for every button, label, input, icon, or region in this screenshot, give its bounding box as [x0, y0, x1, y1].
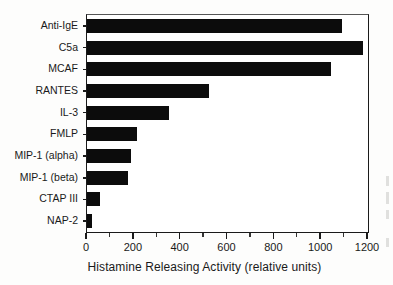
y-axis-tick: [83, 134, 87, 136]
bar-ctap-iii: [87, 192, 100, 206]
x-tick-major: [226, 233, 228, 239]
chart-figure: Anti-IgEC5aMCAFRANTESIL-3FMLPMIP-1 (alph…: [0, 0, 393, 285]
scan-artifact: [386, 238, 389, 247]
x-axis-title: Histamine Releasing Activity (relative u…: [0, 259, 393, 275]
bar-mcaf: [87, 62, 331, 76]
x-tick-label-400: 400: [170, 240, 188, 254]
category-label-mip-1-alpha: MIP-1 (alpha): [14, 149, 78, 161]
category-label-mcaf: MCAF: [48, 62, 78, 74]
scan-artifact: [386, 210, 389, 219]
category-label-il-3: IL-3: [60, 106, 78, 118]
x-tick-label-800: 800: [264, 240, 282, 254]
bar-row: [87, 214, 368, 228]
x-tick-minor: [109, 233, 110, 237]
bar-mip-1-beta: [87, 171, 128, 185]
y-axis-tick: [83, 25, 87, 27]
x-tick-label-200: 200: [124, 240, 142, 254]
category-label-c5a: C5a: [59, 41, 78, 53]
bar-row: [87, 41, 368, 55]
x-tick-label-1200: 1200: [355, 240, 379, 254]
y-axis-category-labels: Anti-IgEC5aMCAFRANTESIL-3FMLPMIP-1 (alph…: [0, 14, 82, 231]
bar-row: [87, 127, 368, 141]
x-axis-ticks: [86, 233, 367, 240]
x-tick-minor: [249, 233, 250, 237]
x-axis-tick-labels: 020040060080010001200: [86, 240, 367, 256]
x-tick-minor: [202, 233, 203, 237]
y-axis-tick: [83, 177, 87, 179]
scan-artifact: [386, 176, 389, 186]
bar-row: [87, 192, 368, 206]
x-tick-label-1000: 1000: [308, 240, 332, 254]
x-tick-major: [85, 233, 87, 239]
category-label-anti-ige: Anti-IgE: [41, 19, 78, 31]
y-axis-tick: [83, 155, 87, 157]
x-tick-major: [273, 233, 275, 239]
x-tick-minor: [343, 233, 344, 237]
bar-row: [87, 62, 368, 76]
bar-mip-1-alpha: [87, 149, 131, 163]
bar-fmlp: [87, 127, 137, 141]
category-label-mip-1-beta: MIP-1 (beta): [20, 171, 78, 183]
y-axis-tick: [83, 220, 87, 222]
category-label-rantes: RANTES: [35, 84, 78, 96]
x-tick-label-0: 0: [83, 240, 89, 254]
category-label-fmlp: FMLP: [50, 127, 78, 139]
bar-rantes: [87, 84, 209, 98]
bar-anti-ige: [87, 19, 342, 33]
y-axis-tick: [83, 199, 87, 201]
scan-artifact: [386, 192, 389, 204]
plot-area: [86, 14, 369, 233]
y-axis-tick: [83, 69, 87, 71]
bar-il-3: [87, 106, 169, 120]
x-tick-minor: [156, 233, 157, 237]
y-axis-tick: [83, 112, 87, 114]
category-label-ctap-iii: CTAP III: [39, 192, 78, 204]
bar-row: [87, 19, 368, 33]
category-label-nap-2: NAP-2: [47, 214, 78, 226]
x-tick-label-600: 600: [217, 240, 235, 254]
bar-row: [87, 149, 368, 163]
x-axis-title-text: Histamine Releasing Activity (relative u…: [88, 259, 322, 275]
x-tick-major: [319, 233, 321, 239]
bar-c5a: [87, 41, 363, 55]
bar-nap-2: [87, 214, 92, 228]
x-tick-minor: [296, 233, 297, 237]
y-axis-tick: [83, 47, 87, 49]
x-tick-major: [179, 233, 181, 239]
bar-row: [87, 171, 368, 185]
bar-row: [87, 106, 368, 120]
y-axis-tick: [83, 90, 87, 92]
x-tick-major: [366, 233, 368, 239]
x-tick-major: [132, 233, 134, 239]
bar-row: [87, 84, 368, 98]
